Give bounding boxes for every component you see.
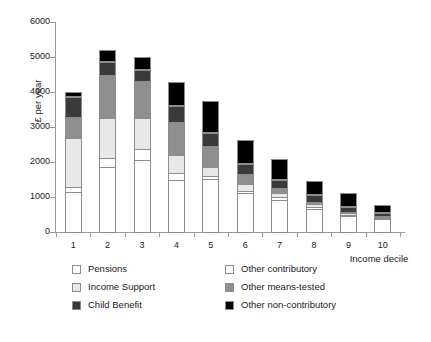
bar-segment	[237, 174, 254, 186]
bar-segment	[168, 155, 185, 175]
bar-segment	[168, 106, 185, 123]
x-tick-mark	[297, 232, 298, 237]
x-tick-mark	[228, 232, 229, 237]
legend-swatch	[225, 283, 234, 292]
bar-segment	[134, 149, 151, 160]
x-tick-mark	[125, 232, 126, 237]
bar-segment	[202, 133, 219, 147]
legend-label: Pensions	[88, 264, 127, 274]
bar-segment	[99, 158, 116, 169]
bar-segment	[99, 118, 116, 159]
bar-segment	[99, 75, 116, 119]
legend-swatch	[225, 301, 234, 310]
x-axis-title: Income decile	[331, 254, 427, 264]
legend-row: Child BenefitOther non-contributory	[72, 300, 402, 318]
bar-segment	[340, 216, 357, 233]
x-tick-label: 4	[164, 240, 188, 250]
legend-item[interactable]: Child Benefit	[72, 300, 142, 310]
bar-segment	[374, 205, 391, 212]
bar-segment	[65, 97, 82, 117]
bar-segment	[168, 173, 185, 181]
y-tick-label: 6000	[6, 17, 50, 26]
bar-segment	[65, 117, 82, 140]
legend-row: Income SupportOther means-tested	[72, 282, 402, 300]
x-tick-label: 1	[61, 240, 85, 250]
bar-segment	[340, 193, 357, 206]
legend-item[interactable]: Other non-contributory	[225, 300, 336, 310]
x-tick-label: 10	[371, 240, 395, 250]
bar-segment	[99, 50, 116, 62]
bar-segment	[134, 160, 151, 234]
legend-label: Income Support	[88, 282, 155, 292]
x-tick-mark	[159, 232, 160, 237]
legend-item[interactable]: Income Support	[72, 282, 155, 292]
bar-segment	[65, 92, 82, 98]
bar-decile-8	[306, 181, 323, 232]
x-tick-mark	[194, 232, 195, 237]
bar-decile-9	[340, 193, 357, 232]
legend-item[interactable]: Other means-tested	[225, 282, 325, 292]
legend-label: Other means-tested	[241, 282, 325, 292]
legend-label: Child Benefit	[88, 300, 142, 310]
x-tick-label: 6	[233, 240, 257, 250]
stacked-bar-chart: 0100020003000400050006000 £ per year 123…	[0, 0, 431, 342]
bar-segment	[237, 184, 254, 192]
x-tick-label: 7	[268, 240, 292, 250]
x-tick-mark	[262, 232, 263, 237]
bar-segment	[134, 57, 151, 69]
x-tick-label: 9	[336, 240, 360, 250]
bar-segment	[271, 159, 288, 179]
bar-segment	[168, 180, 185, 233]
x-tick-mark	[400, 232, 401, 237]
x-tick-mark	[56, 232, 57, 237]
bar-segment	[65, 192, 82, 233]
legend-row: PensionsOther contributory	[72, 264, 402, 282]
bar-segment	[168, 82, 185, 107]
x-tick-label: 8	[302, 240, 326, 250]
y-tick-label: 1000	[6, 192, 50, 201]
x-tick-label: 2	[96, 240, 120, 250]
y-tick-label: 3000	[6, 122, 50, 131]
y-tick-label: 2000	[6, 157, 50, 166]
bar-decile-4	[168, 82, 185, 232]
bar-decile-6	[237, 140, 254, 232]
legend-swatch	[72, 301, 81, 310]
bar-segment	[168, 122, 185, 155]
bar-segment	[237, 140, 254, 164]
x-tick-mark	[366, 232, 367, 237]
x-tick-label: 3	[130, 240, 154, 250]
bar-segment	[202, 179, 219, 233]
bar-decile-10	[374, 205, 391, 232]
legend-item[interactable]: Pensions	[72, 264, 127, 274]
bar-segment	[374, 219, 391, 233]
legend-label: Other non-contributory	[241, 300, 336, 310]
bar-segment	[340, 207, 357, 213]
bar-decile-1	[65, 92, 82, 232]
x-tick-mark	[90, 232, 91, 237]
bar-decile-2	[99, 50, 116, 232]
y-tick-label: 0	[6, 227, 50, 236]
bar-segment	[271, 200, 288, 233]
bar-decile-3	[134, 57, 151, 232]
bar-decile-7	[271, 159, 288, 232]
legend-item[interactable]: Other contributory	[225, 264, 317, 274]
bar-segment	[65, 138, 82, 187]
legend-swatch	[72, 283, 81, 292]
bar-segment	[374, 213, 391, 217]
bar-decile-5	[202, 101, 219, 232]
chart-legend: PensionsOther contributoryIncome Support…	[72, 264, 402, 318]
bar-segment	[99, 167, 116, 233]
y-tick-label: 5000	[6, 52, 50, 61]
x-tick-mark	[331, 232, 332, 237]
bar-segment	[306, 181, 323, 195]
plot-area	[56, 22, 404, 232]
bar-segment	[237, 164, 254, 175]
bar-segment	[202, 146, 219, 168]
bar-segment	[306, 195, 323, 202]
bar-segment	[237, 193, 254, 233]
bar-segment	[134, 70, 151, 82]
bar-segment	[99, 62, 116, 76]
bar-segment	[271, 180, 288, 189]
x-tick-label: 5	[199, 240, 223, 250]
y-axis-title: £ per year	[33, 41, 43, 161]
